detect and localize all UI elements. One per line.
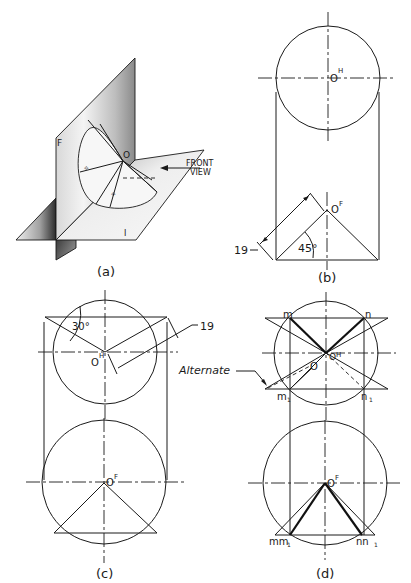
svg-text:1: 1 [369,396,373,403]
svg-text:O: O [106,477,114,488]
svg-text:1: 1 [287,541,291,548]
cone-mark-1: ⟡ [84,164,89,172]
panel-b: O H O F 19 45° (b) [234,12,396,285]
label-m1: m [277,391,287,402]
svg-text:O: O [91,357,99,368]
caption-c: (c) [96,566,113,581]
svg-text:H: H [336,351,341,359]
svg-text:F: F [335,474,339,482]
dimension-19: 19 [234,244,248,257]
svg-text:H: H [99,352,104,360]
front-view-label-2: VIEW [190,168,211,177]
svg-text:F: F [114,473,118,481]
angle-30: 30° [72,321,90,332]
caption-d: (d) [316,566,334,581]
angle-45: 45° [298,242,318,255]
label-nn1: nn [356,536,369,547]
alternate-note: Alternate [178,364,230,377]
plane-f-label: F [57,138,62,148]
caption-b: (b) [318,270,336,285]
descriptive-geometry-figure: ⟡ ⟡ F O I FRONT VIEW (a) O H O F 19 [0,0,411,583]
svg-text:1: 1 [374,541,378,548]
horizontal-plane-left [16,198,56,240]
label-n: n [365,309,371,320]
caption-a: (a) [97,264,115,279]
svg-text:O: O [327,478,335,489]
label-mm1: mm [269,536,288,547]
panel-a: ⟡ ⟡ F O I FRONT VIEW (a) [16,58,213,279]
dimension-19: 19 [200,320,214,333]
vertex-o-label: O [123,150,130,160]
panel-c: O H 30° 19 O F (c) [26,290,214,581]
svg-text:H: H [338,67,343,75]
plane-h-label: I [124,229,126,238]
label-m: m [283,309,293,320]
panel-d: O Alternate O H m n m 1 n 1 O F mm 1 nn … [178,292,402,581]
svg-text:F: F [339,200,343,208]
svg-text:O: O [331,204,339,215]
front-view-triangle [54,483,157,533]
front-view-label-1: FRONT [186,159,213,168]
alternate-o: O [310,361,318,372]
oh-label: O [330,73,338,84]
cone-mark-2: ⟡ [111,190,116,198]
